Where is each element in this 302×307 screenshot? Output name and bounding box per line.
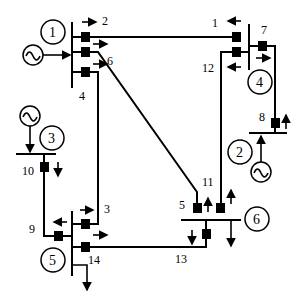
line-1-6 bbox=[72, 52, 197, 205]
breaker-label-6: 6 bbox=[107, 54, 113, 68]
breaker-2[interactable] bbox=[81, 32, 90, 42]
breaker-7[interactable] bbox=[258, 41, 267, 51]
breaker-1[interactable] bbox=[232, 32, 241, 42]
bus-5: 5 bbox=[41, 211, 87, 290]
breaker-5[interactable] bbox=[193, 203, 202, 213]
bus-3: 3 bbox=[16, 106, 64, 154]
breaker-label-11: 11 bbox=[202, 175, 214, 189]
breaker-label-14: 14 bbox=[88, 253, 100, 267]
breaker-label-3: 3 bbox=[104, 202, 110, 216]
bus-1-label: 1 bbox=[49, 25, 56, 40]
breaker-13[interactable] bbox=[202, 229, 211, 239]
bus-2-label: 2 bbox=[236, 145, 243, 160]
bus-4: 4 bbox=[248, 24, 272, 94]
bus-4-label: 4 bbox=[256, 75, 263, 90]
breaker-10[interactable] bbox=[40, 162, 49, 172]
breaker-14[interactable] bbox=[81, 242, 90, 252]
line-1-5 bbox=[72, 72, 98, 224]
breaker-label-4: 4 bbox=[79, 89, 85, 103]
bus-2: 2 bbox=[228, 133, 287, 182]
breaker-3[interactable] bbox=[81, 219, 90, 229]
power-system-diagram: 1 2 6 4 4 1 7 12 2 8 bbox=[0, 0, 302, 307]
breaker-9[interactable] bbox=[54, 231, 63, 241]
bus-6-label: 6 bbox=[253, 212, 260, 227]
breaker-4[interactable] bbox=[81, 67, 90, 77]
breaker-label-10: 10 bbox=[22, 164, 34, 178]
breaker-label-2: 2 bbox=[102, 14, 108, 28]
bus-5-label: 5 bbox=[49, 253, 56, 268]
breaker-8[interactable] bbox=[271, 118, 280, 128]
breaker-label-9: 9 bbox=[29, 222, 35, 236]
bus-3-label: 3 bbox=[48, 131, 55, 146]
breaker-12[interactable] bbox=[232, 47, 241, 57]
breaker-label-12: 12 bbox=[202, 61, 214, 75]
breaker-label-5: 5 bbox=[179, 198, 185, 212]
bus-1: 1 bbox=[23, 20, 72, 88]
line-4-6 bbox=[221, 52, 249, 205]
breaker-label-8: 8 bbox=[259, 110, 265, 124]
breaker-label-1: 1 bbox=[212, 16, 218, 30]
breaker-11[interactable] bbox=[216, 203, 225, 213]
load-arrow-icon bbox=[72, 265, 87, 290]
breaker-6[interactable] bbox=[81, 47, 90, 57]
breaker-label-13: 13 bbox=[175, 252, 187, 266]
breaker-label-7: 7 bbox=[261, 23, 267, 37]
